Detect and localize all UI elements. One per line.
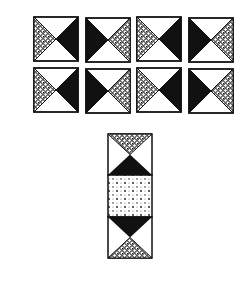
bowtie-tile [136,67,182,113]
column-block [107,133,153,259]
bowtie-tile [136,16,182,62]
bowtie-tile [33,16,79,62]
bowtie-tile [188,17,234,63]
bowtie-tile [33,67,79,113]
middle-dotted-square [108,175,152,217]
bowtie-tile [85,68,131,114]
hourglass-column-figure [107,133,153,259]
bowtie-tile [188,68,234,114]
bowtie-tile [85,17,131,63]
